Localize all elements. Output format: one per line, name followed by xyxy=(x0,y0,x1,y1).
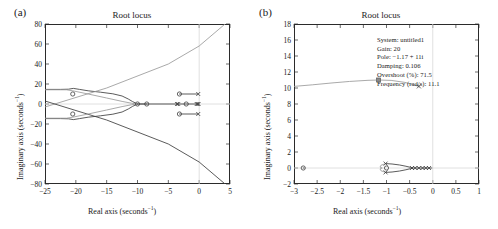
y-tick-label: −2 xyxy=(268,180,291,189)
panel-a: (a) Root locus −25−20−15−10−505−80−60−40… xyxy=(0,0,249,229)
x-tick-label: −1.5 xyxy=(357,187,371,196)
panel-b-plot-area xyxy=(249,0,498,229)
x-tick-label: −1 xyxy=(383,187,391,196)
panel-b-xaxis-title-tail: ) xyxy=(399,207,402,216)
panel-b-yaxis-title-sup: −1 xyxy=(261,96,267,102)
datatip-system: System: untitled1 xyxy=(377,36,440,45)
datatip-box: System: untitled1 Gain: 20 Pole: −1.17 +… xyxy=(377,36,440,88)
y-tick-label: 80 xyxy=(19,20,42,29)
y-tick-label: 14 xyxy=(268,52,291,61)
y-tick-label: −80 xyxy=(19,180,42,189)
x-tick-label: −3 xyxy=(290,187,298,196)
x-tick-label: −0.5 xyxy=(403,187,417,196)
datatip-damping: Damping: 0.106 xyxy=(377,62,440,71)
x-tick-label: −2 xyxy=(336,187,344,196)
panel-b-xaxis-title-text: Real axis (seconds xyxy=(333,207,393,216)
y-tick-label: 60 xyxy=(19,40,42,49)
x-tick-label: 5 xyxy=(228,187,232,196)
datatip-overshoot: Overshoot (%): 71.5 xyxy=(377,71,440,80)
panel-a-yaxis-title-tail: ) xyxy=(16,94,25,97)
panel-a-yaxis-title-text: Imaginary axis (seconds xyxy=(16,102,25,180)
panel-b-xaxis-title: Real axis (seconds−1) xyxy=(333,205,401,216)
y-tick-label: 40 xyxy=(19,60,42,69)
y-tick-label: 10 xyxy=(268,84,291,93)
panel-b-yaxis-title-tail: ) xyxy=(263,94,272,97)
panel-a-yaxis-title-sup: −1 xyxy=(14,96,20,102)
panel-b-yaxis-title: Imaginary axis (seconds−1) xyxy=(261,94,272,180)
y-tick-label: 20 xyxy=(19,80,42,89)
datatip-frequency: Frequency (rad/s): 11.1 xyxy=(377,80,440,89)
datatip-gain: Gain: 20 xyxy=(377,45,440,54)
datatip-pole: Pole: −1.17 + 11i xyxy=(377,53,440,62)
panel-a-yaxis-title: Imaginary axis (seconds−1) xyxy=(14,94,25,180)
panel-a-xaxis-title: Real axis (seconds−1) xyxy=(88,205,156,216)
panel-b: (b) Root locus −3−2.5−2−1.5−1−0.500.51−2… xyxy=(249,0,498,229)
y-tick-label: 12 xyxy=(268,68,291,77)
root-locus-figure: (a) Root locus −25−20−15−10−505−80−60−40… xyxy=(0,0,498,229)
x-tick-label: −10 xyxy=(132,187,144,196)
x-tick-label: −5 xyxy=(164,187,172,196)
x-tick-label: 0 xyxy=(431,187,435,196)
x-tick-label: −15 xyxy=(101,187,113,196)
x-tick-label: 0.5 xyxy=(451,187,460,196)
y-tick-label: 18 xyxy=(268,20,291,29)
x-tick-label: −20 xyxy=(70,187,82,196)
y-tick-label: 16 xyxy=(268,36,291,45)
panel-a-xaxis-title-text: Real axis (seconds xyxy=(88,207,148,216)
panel-a-plot-area xyxy=(0,0,249,229)
panel-a-xaxis-title-tail: ) xyxy=(154,207,157,216)
x-tick-label: 1 xyxy=(477,187,481,196)
x-tick-label: −2.5 xyxy=(310,187,324,196)
x-tick-label: 0 xyxy=(197,187,201,196)
panel-b-yaxis-title-text: Imaginary axis (seconds xyxy=(263,102,272,180)
